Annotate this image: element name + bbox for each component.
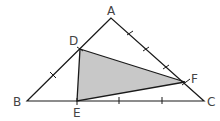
diagram-svg: A B C D E F	[0, 0, 220, 121]
label-c: C	[207, 95, 215, 109]
triangle-diagram: A B C D E F	[0, 0, 220, 121]
label-d: D	[69, 34, 78, 48]
label-e: E	[73, 106, 81, 120]
label-b: B	[13, 95, 21, 109]
label-f: F	[191, 72, 198, 86]
label-a: A	[107, 4, 116, 18]
inner-triangle-def	[77, 49, 185, 101]
